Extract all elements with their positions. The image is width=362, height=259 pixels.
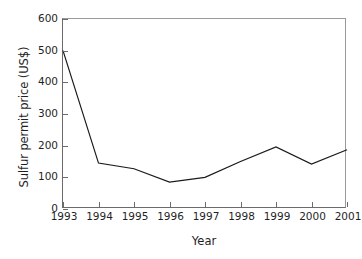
x-axis-tick: 2001 xyxy=(347,202,348,207)
x-axis-tick: 1999 xyxy=(276,202,277,207)
y-axis-tick-label: 400 xyxy=(38,75,58,87)
x-axis-tick-label: 1998 xyxy=(228,210,255,222)
y-axis-tick: 200 xyxy=(63,146,68,147)
x-axis-tick: 1995 xyxy=(134,202,135,207)
y-axis-tick-label: 200 xyxy=(38,139,58,151)
y-axis-title: Sulfur permit price (US$) xyxy=(17,22,35,212)
y-axis-tick-label: 600 xyxy=(38,12,58,24)
x-axis-tick-label: 2001 xyxy=(335,210,362,222)
x-axis-tick-label: 1999 xyxy=(264,210,291,222)
x-axis-tick-label: 1996 xyxy=(157,210,184,222)
x-axis-tick: 2000 xyxy=(312,202,313,207)
y-axis-tick-label: 100 xyxy=(38,170,58,182)
chart-figure: Sulfur permit price (US$) 01002003004005… xyxy=(0,0,362,259)
plot-area: 0100200300400500600199319941995199619971… xyxy=(62,18,346,208)
x-axis-tick-label: 1997 xyxy=(193,210,220,222)
y-axis-tick: 500 xyxy=(63,51,68,52)
x-axis-tick: 1993 xyxy=(63,202,64,207)
series-polyline xyxy=(63,51,347,182)
x-axis-tick: 1997 xyxy=(205,202,206,207)
x-axis-tick: 1994 xyxy=(99,202,100,207)
x-axis-tick: 1998 xyxy=(241,202,242,207)
x-axis-title: Year xyxy=(62,234,346,248)
x-axis-tick-label: 2000 xyxy=(299,210,326,222)
y-axis-tick: 100 xyxy=(63,177,68,178)
x-axis-tick: 1996 xyxy=(170,202,171,207)
y-axis-tick: 600 xyxy=(63,19,68,20)
line-series-sulfur-permit-price xyxy=(63,19,347,209)
y-axis-tick: 300 xyxy=(63,114,68,115)
x-axis-tick-label: 1995 xyxy=(122,210,149,222)
x-axis-tick-label: 1993 xyxy=(51,210,78,222)
x-axis-tick-label: 1994 xyxy=(86,210,113,222)
y-axis-tick-label: 500 xyxy=(38,44,58,56)
y-axis-tick-label: 300 xyxy=(38,107,58,119)
y-axis-tick: 400 xyxy=(63,82,68,83)
